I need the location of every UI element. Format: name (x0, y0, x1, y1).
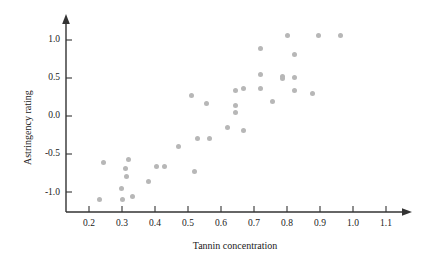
x-tick-label: 1.1 (380, 219, 392, 229)
x-tick-label: 0.4 (149, 219, 161, 229)
data-point (97, 197, 102, 202)
x-tick-label: 0.5 (182, 219, 194, 229)
data-point (292, 75, 297, 80)
data-point (258, 72, 263, 77)
plot-area: 0.20.30.40.50.60.70.80.91.01.1-1.0-0.50.… (0, 0, 423, 263)
data-point (285, 33, 290, 38)
data-point (310, 91, 315, 96)
data-point (176, 144, 181, 149)
y-tick-label: -0.5 (34, 150, 60, 160)
data-point (233, 88, 238, 93)
y-axis-title: Astringency rating (22, 90, 33, 165)
x-tick-label: 0.9 (314, 219, 326, 229)
scatter-plot-figure: 0.20.30.40.50.60.70.80.91.01.1-1.0-0.50.… (0, 0, 423, 263)
data-point (270, 99, 275, 104)
data-point (338, 33, 343, 38)
data-point (241, 128, 246, 133)
x-tick-label: 0.6 (215, 219, 227, 229)
data-point (192, 169, 197, 174)
x-axis-title: Tannin concentration (193, 240, 278, 251)
data-point (241, 86, 246, 91)
y-tick-label: 0.0 (34, 111, 60, 121)
data-point (292, 52, 297, 57)
data-point (292, 88, 297, 93)
data-point (120, 197, 125, 202)
x-tick-label: 0.8 (281, 219, 293, 229)
x-tick-label: 0.2 (83, 219, 95, 229)
y-tick-label: 0.5 (34, 73, 60, 83)
data-point (189, 93, 194, 98)
data-point (119, 186, 124, 191)
data-point (154, 164, 159, 169)
data-point (316, 33, 321, 38)
data-point (195, 136, 200, 141)
y-tick-label: -1.0 (34, 188, 60, 198)
data-point (146, 179, 151, 184)
data-point (258, 46, 263, 51)
data-point (204, 101, 209, 106)
x-tick-label: 0.3 (116, 219, 128, 229)
data-point (233, 110, 238, 115)
data-point (101, 160, 106, 165)
x-tick-label: 0.7 (248, 219, 260, 229)
data-point (233, 103, 238, 108)
data-point (280, 76, 285, 81)
data-point (162, 164, 167, 169)
data-point (126, 157, 131, 162)
data-point (130, 194, 135, 199)
y-tick-label: 1.0 (34, 35, 60, 45)
data-point (124, 174, 129, 179)
data-point (207, 136, 212, 141)
data-point (225, 125, 230, 130)
x-tick-label: 1.0 (347, 219, 359, 229)
data-point (258, 86, 263, 91)
data-point (123, 166, 128, 171)
